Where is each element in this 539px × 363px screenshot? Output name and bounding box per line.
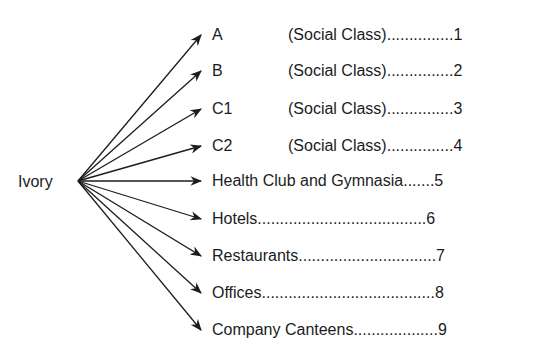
segment-number: 6	[426, 210, 435, 227]
segment-item-company-canteens: Company Canteens...................9	[212, 320, 447, 340]
arrow-7	[78, 181, 201, 256]
root-node-ivory: Ivory	[18, 172, 53, 192]
arrow-8	[78, 181, 201, 293]
arrow-1	[78, 35, 201, 181]
segment-code: A	[212, 25, 288, 45]
segment-item-health-club: Health Club and Gymnasia.......5	[212, 171, 443, 191]
segment-text: Offices.................................…	[212, 284, 435, 301]
segment-text: Restaurants.............................…	[212, 247, 436, 264]
segment-number: 3	[453, 100, 462, 117]
segment-text: (Social Class)...............	[288, 137, 453, 154]
segment-number: 5	[434, 172, 443, 189]
ivory-market-segmentation-diagram: Ivory A(Social Class)...............1 B(…	[0, 0, 539, 363]
segment-item-a: A(Social Class)...............1	[212, 25, 462, 45]
segment-item-c2: C2(Social Class)...............4	[212, 136, 462, 156]
segment-number: 1	[453, 26, 462, 43]
segment-text: Hotels..................................…	[212, 210, 426, 227]
arrow-6	[78, 181, 201, 219]
segment-text: Health Club and Gymnasia.......	[212, 172, 434, 189]
segment-number: 9	[438, 321, 447, 338]
segment-number: 4	[453, 137, 462, 154]
segment-number: 8	[435, 284, 444, 301]
segment-number: 2	[453, 62, 462, 79]
segment-item-restaurants: Restaurants.............................…	[212, 246, 445, 266]
segment-item-offices: Offices.................................…	[212, 283, 444, 303]
segment-code: C1	[212, 99, 288, 119]
segment-text: (Social Class)...............	[288, 26, 453, 43]
segment-text: (Social Class)...............	[288, 100, 453, 117]
arrow-9	[78, 181, 201, 330]
segment-text: Company Canteens...................	[212, 321, 438, 338]
segment-text: (Social Class)...............	[288, 62, 453, 79]
segment-item-b: B(Social Class)...............2	[212, 61, 462, 81]
segment-code: B	[212, 61, 288, 81]
segment-number: 7	[436, 247, 445, 264]
segment-code: C2	[212, 136, 288, 156]
segment-item-hotels: Hotels..................................…	[212, 209, 435, 229]
arrow-4	[78, 146, 201, 181]
arrow-2	[78, 71, 201, 181]
segment-item-c1: C1(Social Class)...............3	[212, 99, 462, 119]
arrow-3	[78, 109, 201, 181]
